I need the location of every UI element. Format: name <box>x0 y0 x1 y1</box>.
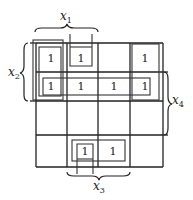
cell-r2-c4: 1 <box>142 80 149 93</box>
brace-x4-icon <box>164 72 172 135</box>
cell-r4-c2: 1 <box>82 145 89 158</box>
cell-r1-c1: 1 <box>48 52 55 65</box>
cell-r2-c3: 1 <box>111 80 118 93</box>
label-x3: x3 <box>93 179 105 195</box>
brace-x1-icon <box>35 24 98 32</box>
cell-r1-c2: 1 <box>78 52 85 65</box>
cell-r2-c1: 1 <box>48 80 55 93</box>
cell-r4-c3: 1 <box>110 145 117 158</box>
brace-x2-icon <box>20 43 28 101</box>
loop-row-2 <box>43 78 150 95</box>
cell-r1-c4: 1 <box>142 52 149 65</box>
karnaugh-map-diagram: 1 1 1 1 1 1 1 1 1 x1 x2 x3 x4 <box>0 0 193 200</box>
cell-r2-c2: 1 <box>78 80 85 93</box>
label-x2: x2 <box>8 65 20 81</box>
label-x4: x4 <box>172 93 184 109</box>
label-x1: x1 <box>60 9 72 25</box>
